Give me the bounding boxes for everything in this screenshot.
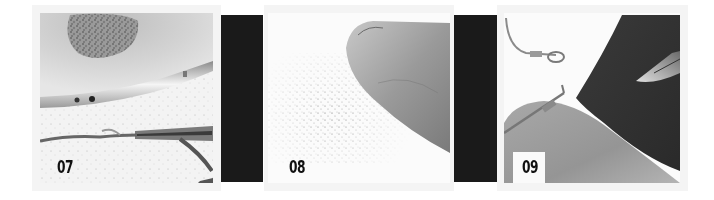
separator-bar [221, 15, 263, 182]
step-number-09: 09 [522, 159, 538, 176]
step-number-07: 07 [57, 159, 73, 176]
separator-bar [454, 15, 497, 182]
step-number-08: 08 [289, 159, 305, 176]
